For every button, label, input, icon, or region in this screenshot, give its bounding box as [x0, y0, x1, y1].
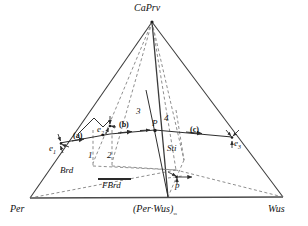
cotectic-line	[60, 130, 232, 143]
point-e1	[60, 142, 63, 145]
phase-diagram-figure: CaPrv Per Wus (Per·Wus)ss Brd FBrd Sti e…	[0, 0, 308, 226]
edge-caprv-wus	[152, 22, 283, 197]
e2-arrow-right	[111, 126, 116, 127]
diagram-canvas	[0, 0, 308, 226]
segment-label-b: (b)	[119, 120, 129, 129]
e1-sub: 1	[53, 149, 56, 155]
dashed-wus-back	[176, 170, 283, 197]
point-label-e1: e1	[49, 143, 56, 155]
dashed-boundary-4	[176, 110, 184, 160]
e3-sub: 3	[238, 144, 241, 150]
p-arrows	[168, 172, 192, 184]
point-e2	[109, 125, 112, 128]
dashed-brd-lower	[93, 166, 176, 170]
point-label-e3: e3	[234, 138, 241, 150]
phase-label-brd: Brd	[60, 165, 73, 175]
point-e3	[231, 136, 234, 139]
dashed-sti-down	[168, 160, 184, 197]
edge-caprv-per	[30, 22, 152, 198]
dashed-caprv-brd1	[93, 22, 152, 163]
point-P	[153, 129, 156, 132]
arrow-into-p	[140, 130, 150, 131]
perwus-subscript: ss	[173, 211, 176, 216]
phase-label-sti: Sti	[167, 143, 177, 153]
point-markers	[60, 20, 234, 178]
phase-label-fbrd: FBrd	[102, 180, 121, 190]
point-p	[175, 176, 178, 179]
p-arrow-diag	[168, 172, 176, 176]
edge-per-wus	[30, 197, 283, 198]
e2-sub: 2	[101, 130, 104, 136]
dashed-brd-lower2	[112, 166, 176, 170]
dashed-caprv-brd2	[112, 22, 152, 163]
point-label-p: p	[175, 180, 180, 190]
boundary-number-4: 4	[164, 113, 169, 123]
boundary-curves	[78, 90, 168, 197]
boundary-number-1: 1	[88, 150, 93, 160]
e3-arrow-down-left	[226, 130, 231, 136]
point-apex	[150, 20, 153, 23]
vertex-label-wus: Wus	[268, 203, 285, 214]
ridge-e2	[78, 118, 110, 134]
point-label-e2: e2	[97, 124, 104, 136]
e2-arrows	[106, 116, 116, 134]
e1-arrow-up	[58, 134, 61, 141]
segment-label-a: (a)	[73, 131, 82, 140]
boundary-number-3: 3	[136, 106, 141, 116]
vertex-label-per: Per	[10, 203, 24, 214]
perwus-main: (Per·Wus)	[133, 203, 173, 214]
edge-caprv-perwus	[152, 22, 168, 197]
cotectic-e1-to-e3	[60, 130, 232, 143]
boundary-number-2: 2	[107, 150, 112, 160]
vertex-label-perwus: (Per·Wus)ss	[133, 203, 177, 216]
point-label-P: P	[152, 118, 158, 128]
segment-label-c: (c)	[190, 125, 199, 134]
vertex-label-caprv: CaPrv	[134, 2, 160, 13]
